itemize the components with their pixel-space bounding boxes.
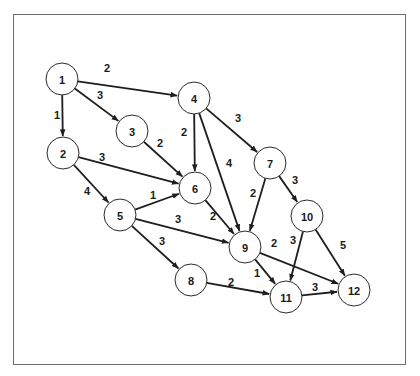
node-5: 5 (104, 199, 136, 231)
edge-weight-label: 3 (175, 213, 181, 225)
edge-weight-label: 2 (181, 126, 187, 138)
edge-weight-label: 2 (250, 187, 256, 199)
edge-3-to-6 (144, 142, 183, 177)
node-label: 7 (267, 158, 273, 170)
node-label: 9 (242, 242, 248, 254)
node-2: 2 (47, 137, 79, 169)
edge-line (302, 292, 337, 296)
edge-line (194, 114, 195, 171)
graph-canvas: 231232434132233213523 123456789101112 (0, 0, 420, 376)
edge-5-to-6 (135, 194, 179, 210)
node-10: 10 (291, 200, 323, 232)
node-label: 6 (192, 183, 198, 195)
edge-5-to-9 (136, 219, 229, 243)
edge-line (135, 194, 179, 210)
edge-weight-label: 1 (254, 267, 260, 279)
node-4: 4 (178, 82, 210, 114)
edge-weight-label: 3 (99, 151, 105, 163)
edge-weight-label: 3 (97, 89, 103, 101)
node-3: 3 (116, 115, 148, 147)
edge-4-to-7 (206, 108, 257, 152)
node-label: 8 (188, 275, 194, 287)
node-label: 1 (59, 74, 65, 86)
edge-2-to-6 (78, 157, 178, 184)
edge-weight-label: 4 (84, 185, 91, 197)
edge-1-to-2 (62, 95, 63, 136)
node-1: 1 (46, 63, 78, 95)
edge-line (144, 142, 183, 177)
edge-8-to-11 (207, 283, 270, 294)
node-label: 12 (348, 285, 360, 297)
edge-5-to-8 (132, 226, 179, 269)
node-12: 12 (338, 274, 370, 306)
node-label: 5 (117, 210, 123, 222)
edge-line (207, 283, 270, 294)
node-label: 4 (191, 93, 198, 105)
edge-line (62, 95, 63, 136)
node-7: 7 (254, 147, 286, 179)
node-6: 6 (179, 172, 211, 204)
edge-weight-label: 3 (235, 112, 241, 124)
node-label: 10 (301, 211, 313, 223)
edge-11-to-12 (302, 292, 337, 296)
node-label: 3 (129, 126, 135, 138)
edge-weight-label: 2 (210, 210, 216, 222)
edge-weight-label: 2 (228, 276, 234, 288)
edge-line (132, 226, 179, 269)
edge-weight-label: 3 (159, 235, 165, 247)
node-label: 2 (60, 148, 66, 160)
edge-line (136, 219, 229, 243)
edge-line (78, 81, 177, 95)
edge-weight-label: 2 (157, 137, 163, 149)
edge-line (206, 108, 257, 152)
edge-weight-label: 4 (226, 157, 233, 169)
edge-weight-label: 3 (312, 281, 318, 293)
edge-weight-label: 2 (271, 237, 277, 249)
edge-weight-label: 1 (150, 189, 156, 201)
edge-1-to-4 (78, 81, 177, 95)
node-11: 11 (270, 281, 302, 313)
node-8: 8 (175, 264, 207, 296)
edge-weight-label: 3 (292, 174, 298, 186)
edge-weight-label: 5 (340, 239, 346, 251)
edge-2-to-5 (74, 165, 109, 203)
edge-line (78, 157, 178, 184)
edge-weight-label: 2 (104, 62, 110, 74)
edge-4-to-6 (194, 114, 195, 171)
edge-weight-label: 1 (54, 109, 60, 121)
node-label: 11 (280, 292, 292, 304)
node-9: 9 (229, 231, 261, 263)
edge-line (316, 230, 345, 276)
edge-line (74, 165, 109, 203)
edge-10-to-12 (316, 230, 345, 276)
edge-weight-label: 3 (290, 234, 296, 246)
